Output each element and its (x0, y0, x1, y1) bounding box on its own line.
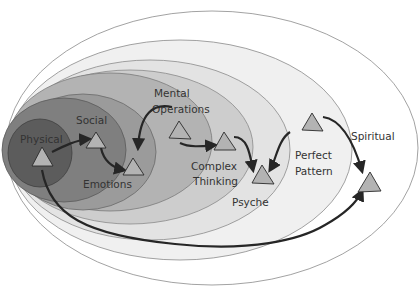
label-complex-thinking-2: Thinking (192, 175, 238, 187)
label-spiritual: Spiritual (351, 130, 395, 142)
label-psyche: Psyche (232, 196, 269, 208)
label-complex-thinking-1: Complex (191, 160, 237, 172)
label-emotions: Emotions (83, 178, 132, 190)
label-perfect-pattern-2: Pattern (295, 165, 333, 177)
label-physical: Physical (20, 133, 63, 145)
label-social: Social (76, 114, 107, 126)
label-mental-operations-2: Operations (152, 103, 210, 115)
label-perfect-pattern-1: Perfect (295, 149, 332, 161)
label-mental-operations-1: Mental (154, 87, 190, 99)
developmental-levels-diagram: Physical Social Emotions Mental Operatio… (0, 0, 419, 291)
